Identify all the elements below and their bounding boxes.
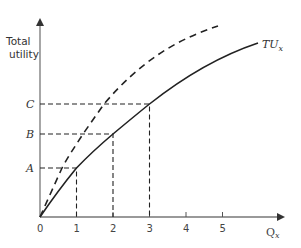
svg-text:5: 5: [220, 223, 226, 234]
y-axis-label-line1: Total: [5, 35, 31, 47]
curve-label-tux: TUx: [262, 38, 284, 53]
svg-text:1: 1: [74, 223, 80, 234]
svg-text:4: 4: [183, 223, 189, 234]
svg-text:0: 0: [37, 223, 43, 234]
level-label-a: A: [25, 162, 34, 175]
level-label-c: C: [26, 98, 35, 111]
x-axis-label: Qx: [266, 226, 280, 240]
svg-text:3: 3: [147, 223, 153, 234]
utility-chart: Total utility 0 1 2 3 4 5 Qx A B C TUx: [0, 0, 301, 248]
level-guides: [40, 104, 150, 217]
level-label-b: B: [25, 128, 34, 141]
x-tick-labels: 0 1 2 3 4 5: [37, 223, 226, 234]
y-axis-label-line2: utility: [9, 48, 39, 60]
svg-text:2: 2: [110, 223, 116, 234]
